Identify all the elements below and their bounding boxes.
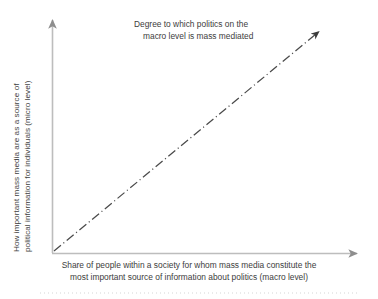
trend-line: [54, 34, 316, 251]
trend-annotation: Degree to which politics on the macro le…: [134, 19, 253, 42]
y-axis-label-line-2: political information for individuals (m…: [22, 81, 33, 252]
x-axis-label: Share of people within a society for who…: [0, 260, 378, 284]
x-axis-label-line-1: Share of people within a society for who…: [0, 260, 378, 272]
plot-canvas: [0, 0, 378, 299]
y-axis-label: How important mass media are as a source…: [11, 12, 45, 252]
x-axis-label-line-2: most important source of information abo…: [0, 272, 378, 284]
y-axis-label-line-1: How important mass media are as a source…: [11, 83, 22, 252]
scan-noise-artifact: [40, 292, 360, 294]
trend-annotation-line-1: Degree to which politics on the: [134, 19, 253, 31]
conceptual-diagram-figure: How important mass media are as a source…: [0, 0, 378, 299]
trend-annotation-line-2: macro level is mass mediated: [134, 31, 253, 43]
